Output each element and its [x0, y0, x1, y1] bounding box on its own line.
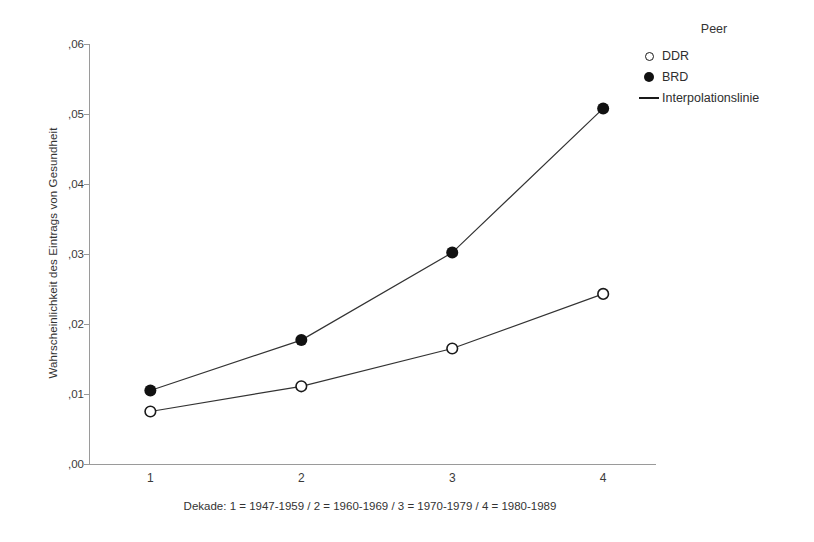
legend-item-label: BRD [662, 70, 688, 84]
filled-circle-icon [636, 72, 662, 82]
legend-item-ddr[interactable]: DDR [636, 46, 811, 66]
legend-item-label: DDR [662, 49, 689, 63]
x-axis-caption: Dekade: 1 = 1947-1959 / 2 = 1960-1969 / … [0, 500, 740, 512]
x-axis-tick-label: 1 [130, 471, 170, 485]
legend: Peer DDR BRD Interpolationslinie [636, 22, 811, 109]
x-axis-tick-label: 3 [432, 471, 472, 485]
legend-item-interpolation-line[interactable]: Interpolationslinie [636, 88, 811, 108]
line-segment-icon [636, 97, 662, 99]
open-circle-icon [636, 52, 662, 61]
x-axis-tick-label: 2 [281, 471, 321, 485]
legend-item-label: Interpolationslinie [662, 91, 759, 105]
x-axis-tick-label: 4 [583, 471, 623, 485]
legend-title: Peer [654, 22, 774, 36]
legend-item-brd[interactable]: BRD [636, 67, 811, 87]
chart-container: Wahrscheinlichkeit des Eintrags von Gesu… [0, 0, 814, 542]
